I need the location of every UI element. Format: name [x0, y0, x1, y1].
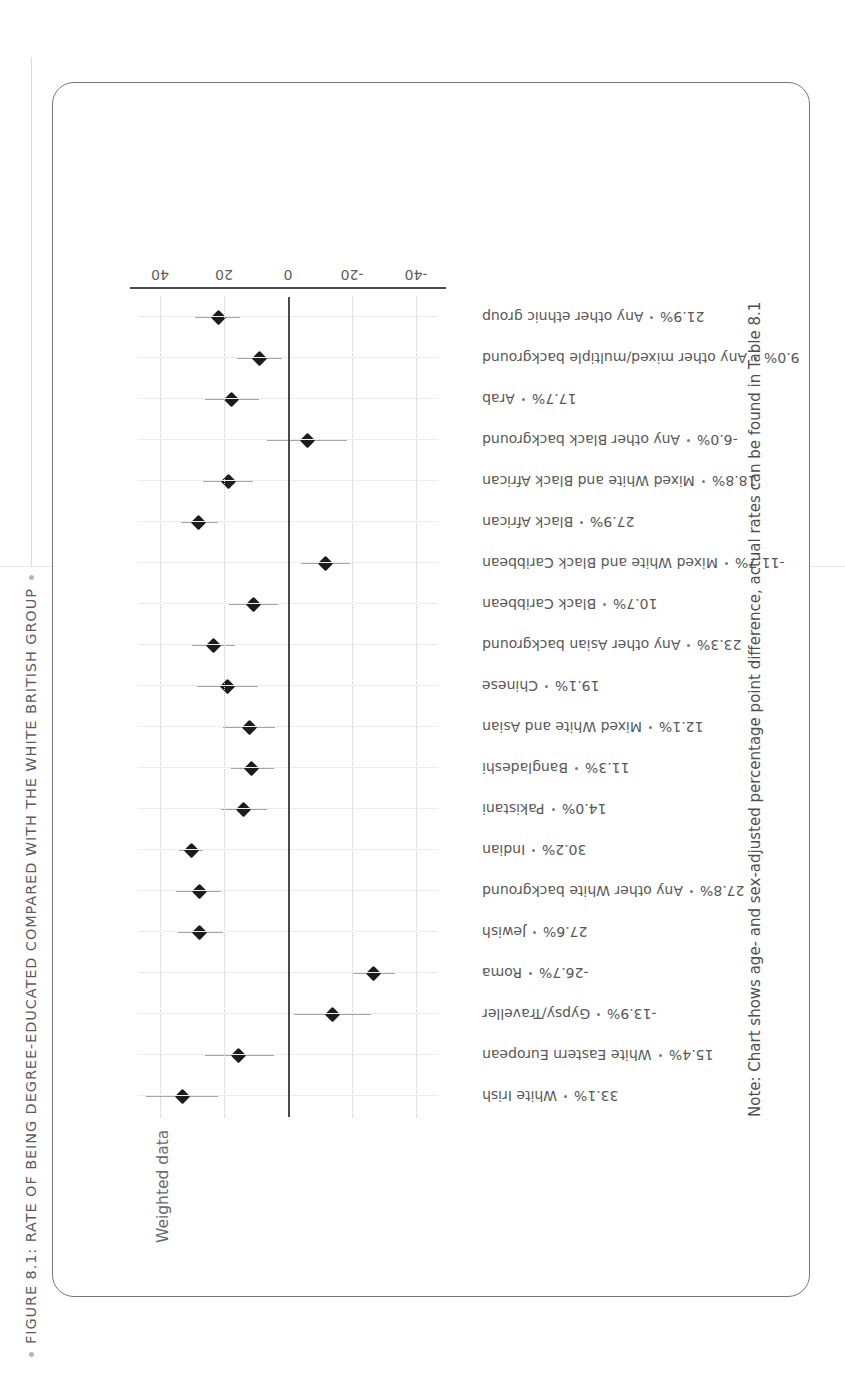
separator-dot-icon — [545, 685, 548, 688]
category-labels: White Irish33.1%White Eastern European15… — [482, 297, 732, 1117]
category-name: Gypsy/Traveller — [482, 1008, 590, 1022]
category-name: Any other White background — [482, 885, 683, 899]
figure-body: Weighted data White Irish33.1%White East… — [70, 109, 794, 1269]
category-value: -6.0% — [697, 434, 738, 448]
category-value: 19.1% — [555, 680, 599, 694]
category-name: Jewish — [482, 926, 526, 940]
weighted-data-label: Weighted data — [154, 1130, 172, 1243]
category-name: Mixed White and Black Caribbean — [482, 557, 718, 571]
category-name: Any other ethnic group — [482, 311, 643, 325]
category-name: Black Caribbean — [482, 598, 596, 612]
gridline-20 — [224, 297, 225, 1117]
marker-diamond — [220, 474, 236, 490]
separator-dot-icon — [522, 398, 525, 401]
category-label-item: White Eastern European15.4% — [482, 1049, 713, 1063]
category-name: Any other Black background — [482, 434, 680, 448]
axis-tick-label: 40 — [151, 267, 169, 283]
category-value: -26.7% — [539, 967, 589, 981]
category-value: 27.9% — [590, 516, 634, 530]
category-name: Any other Asian background — [482, 639, 680, 653]
bullet-dot-icon — [29, 575, 34, 580]
separator-dot-icon — [529, 972, 532, 975]
category-name: Bangladeshi — [482, 762, 568, 776]
category-label-item: Black African27.9% — [482, 516, 635, 530]
y-axis-labels: -40-2002040 — [138, 243, 438, 283]
category-value: 27.8% — [700, 885, 744, 899]
marker-diamond — [242, 720, 258, 736]
category-label-item: Indian30.2% — [482, 844, 587, 858]
separator-dot-icon — [603, 603, 606, 606]
separator-dot-icon — [580, 521, 583, 524]
axis-container — [288, 297, 322, 1117]
axis-spine — [130, 287, 446, 289]
category-label-item: Bangladeshi11.3% — [482, 762, 629, 776]
category-value: 23.3% — [697, 639, 741, 653]
marker-diamond — [175, 1089, 191, 1105]
category-name: Mixed White and Asian — [482, 721, 642, 735]
axis-tick-label: 20 — [215, 267, 233, 283]
marker-diamond — [191, 884, 207, 900]
marker-diamond — [206, 638, 222, 654]
marker-diamond — [184, 843, 200, 859]
gridline--20 — [352, 297, 353, 1117]
category-label-item: Any other ethnic group21.9% — [482, 311, 705, 325]
category-label-item: Any other Asian background23.3% — [482, 639, 742, 653]
separator-dot-icon — [532, 849, 535, 852]
category-name: White Irish — [482, 1090, 557, 1104]
marker-diamond — [219, 679, 235, 695]
separator-dot-icon — [650, 316, 653, 319]
category-label-item: Any other White background27.8% — [482, 885, 744, 899]
category-name: Arab — [482, 393, 515, 407]
marker-diamond — [365, 966, 381, 982]
category-name: Mixed White and Black African — [482, 475, 695, 489]
separator-dot-icon — [533, 931, 536, 934]
marker-diamond — [192, 925, 208, 941]
marker-diamond — [191, 515, 207, 531]
gridline--40 — [416, 297, 417, 1117]
category-name: Black African — [482, 516, 573, 530]
category-value: -13.9% — [607, 1008, 657, 1022]
category-label-item: Gypsy/Traveller-13.9% — [482, 1008, 657, 1022]
category-label-item: Pakistani14.0% — [482, 803, 606, 817]
separator-dot-icon — [702, 480, 705, 483]
zero-axis-line — [288, 297, 290, 1117]
category-name: Roma — [482, 967, 522, 981]
category-label-item: Chinese19.1% — [482, 680, 599, 694]
marker-diamond — [251, 351, 267, 367]
separator-dot-icon — [690, 890, 693, 893]
category-value: 21.9% — [660, 311, 704, 325]
category-value: 30.2% — [542, 844, 586, 858]
marker-diamond — [236, 802, 252, 818]
separator-dot-icon — [659, 1054, 662, 1057]
figure-title-row: FIGURE 8.1: RATE OF BEING DEGREE-EDUCATE… — [18, 57, 44, 1357]
rotated-figure-container: FIGURE 8.1: RATE OF BEING DEGREE-EDUCATE… — [0, 0, 845, 1381]
category-value: 10.7% — [613, 598, 657, 612]
figure-note: Note: Chart shows age- and sex-adjusted … — [746, 57, 764, 1117]
separator-dot-icon — [575, 767, 578, 770]
axis-tick-label: -20 — [340, 267, 363, 283]
page-title: FIGURE 8.1: RATE OF BEING DEGREE-EDUCATE… — [23, 588, 39, 1344]
category-value: 14.0% — [562, 803, 606, 817]
axis-tick-label: -40 — [404, 267, 427, 283]
figure-page: FIGURE 8.1: RATE OF BEING DEGREE-EDUCATE… — [0, 0, 845, 1381]
category-value: 17.7% — [532, 393, 576, 407]
category-name: Indian — [482, 844, 525, 858]
separator-dot-icon — [687, 439, 690, 442]
gridline-40 — [160, 297, 161, 1117]
marker-diamond — [231, 1048, 247, 1064]
marker-diamond — [244, 761, 260, 777]
category-label-item: White Irish33.1% — [482, 1090, 619, 1104]
bullet-dot-icon — [29, 1352, 34, 1357]
separator-dot-icon — [552, 808, 555, 811]
category-value: 9.0% — [764, 352, 800, 366]
marker-diamond — [224, 392, 240, 408]
category-value: 12.1% — [659, 721, 703, 735]
category-value: 33.1% — [574, 1090, 618, 1104]
marker-diamond — [325, 1007, 341, 1023]
separator-dot-icon — [649, 726, 652, 729]
category-label-item: Mixed White and Black African18.8% — [482, 475, 756, 489]
category-value: 11.3% — [585, 762, 629, 776]
separator-dot-icon — [687, 644, 690, 647]
separator-dot-icon — [564, 1095, 567, 1098]
category-label-item: Arab17.7% — [482, 393, 576, 407]
